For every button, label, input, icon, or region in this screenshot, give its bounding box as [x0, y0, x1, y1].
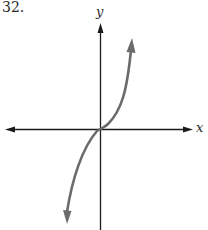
curve-bottom-arrow-icon — [63, 210, 72, 224]
x-axis-right-arrow-icon — [183, 127, 193, 133]
y-axis-arrow-icon — [98, 23, 104, 33]
x-axis-left-arrow-icon — [5, 127, 15, 133]
graph — [0, 0, 208, 230]
curve-top-arrow-icon — [127, 38, 136, 53]
cubic-curve — [63, 38, 136, 224]
